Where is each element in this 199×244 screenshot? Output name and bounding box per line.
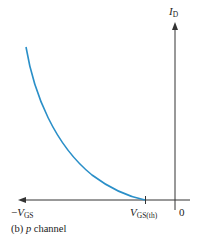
caption: (b) p channel bbox=[11, 224, 66, 235]
origin-label: 0 bbox=[179, 207, 185, 218]
x-axis-left-label: −VGS bbox=[11, 207, 34, 220]
y-axis-label: ID bbox=[169, 6, 178, 19]
id-vgs-curve bbox=[26, 47, 145, 200]
threshold-label: VGS(th) bbox=[130, 207, 157, 220]
